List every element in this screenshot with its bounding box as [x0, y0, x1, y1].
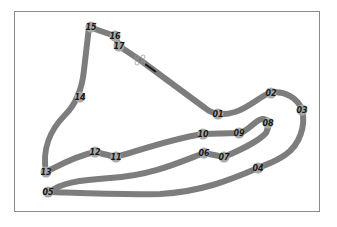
- corner-07: 07: [218, 152, 230, 163]
- svg-text:11: 11: [110, 153, 121, 162]
- corner-10: 10: [197, 129, 209, 140]
- svg-text:13: 13: [40, 168, 52, 177]
- svg-text:07: 07: [218, 153, 230, 162]
- svg-text:02: 02: [265, 89, 277, 98]
- svg-text:08: 08: [262, 119, 274, 128]
- corner-05: 05: [42, 187, 54, 198]
- svg-text:03: 03: [296, 106, 308, 115]
- corner-11: 11: [110, 152, 121, 163]
- corner-09: 09: [233, 128, 245, 139]
- corner-17: 17: [113, 41, 125, 52]
- corner-markers: 01 02 03 04 05 06 07 08 09 10 11 12 13 1…: [40, 22, 308, 198]
- svg-text:15: 15: [85, 23, 97, 32]
- corner-12: 12: [89, 147, 101, 158]
- svg-text:16: 16: [109, 32, 121, 41]
- corner-04: 04: [252, 163, 264, 174]
- svg-text:10: 10: [197, 130, 209, 139]
- corner-13: 13: [40, 167, 52, 178]
- svg-text:01: 01: [212, 110, 223, 119]
- corner-14: 14: [74, 92, 86, 103]
- svg-text:06: 06: [198, 149, 210, 158]
- track-layout: 01 02 03 04 05 06 07 08 09 10 11 12 13 1…: [0, 0, 337, 227]
- svg-text:14: 14: [74, 93, 86, 102]
- svg-text:04: 04: [252, 164, 264, 173]
- corner-02: 02: [265, 88, 277, 99]
- circuit-diagram: 01 02 03 04 05 06 07 08 09 10 11 12 13 1…: [0, 0, 337, 227]
- svg-text:09: 09: [233, 129, 245, 138]
- corner-03: 03: [296, 105, 308, 116]
- svg-text:17: 17: [113, 42, 125, 51]
- corner-08: 08: [262, 118, 274, 129]
- svg-text:05: 05: [42, 188, 54, 197]
- svg-text:12: 12: [89, 148, 101, 157]
- corner-01: 01: [212, 109, 223, 120]
- corner-15: 15: [85, 22, 97, 33]
- corner-16: 16: [109, 31, 121, 42]
- track-path: [45, 27, 303, 194]
- corner-06: 06: [198, 148, 210, 159]
